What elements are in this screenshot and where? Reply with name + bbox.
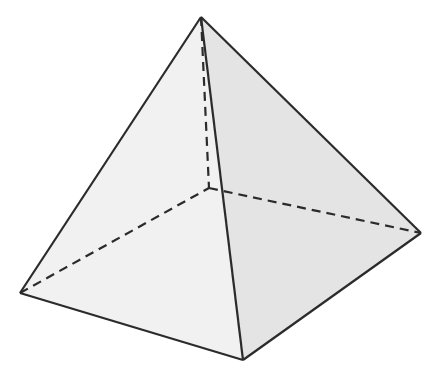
square-pyramid-diagram	[0, 0, 446, 378]
